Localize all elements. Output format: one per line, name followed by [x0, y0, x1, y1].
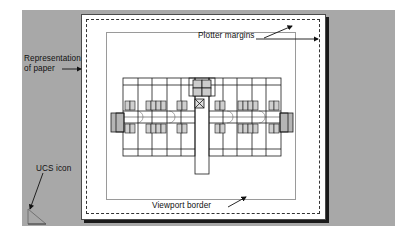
- label-plotter-margins: Plotter margins: [198, 31, 255, 41]
- label-ucs-icon: UCS icon: [36, 164, 71, 174]
- ucs-axis-triangle-icon: [26, 208, 48, 226]
- figure-canvas: Representation of paper UCS icon Plotter…: [0, 0, 413, 239]
- leader-arrow-plotter-up: [264, 26, 292, 38]
- leader-arrow-ucs: [30, 173, 43, 209]
- label-viewport-border: Viewport border: [152, 201, 211, 211]
- leader-arrow-viewport: [228, 197, 246, 207]
